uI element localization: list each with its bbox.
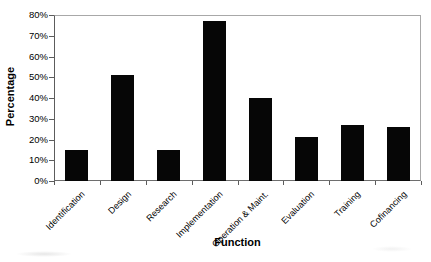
y-axis-tick-label: 20% (14, 134, 48, 146)
bar-cofinancing (387, 127, 410, 181)
y-axis-tick-label: 0% (14, 175, 48, 187)
x-axis-category-label-design: Design (106, 189, 133, 216)
y-axis-tick-mark (49, 140, 54, 141)
x-axis-category-label-research: Research (144, 189, 178, 223)
x-axis-title: Function (54, 236, 421, 249)
bar-design (111, 75, 134, 181)
bar-research (157, 150, 180, 181)
bar-chart: Percentage 0%10%20%30%40%50%60%70%80% Id… (0, 0, 431, 262)
y-axis-tick-mark (49, 15, 54, 16)
y-axis-tick-mark (49, 98, 54, 99)
x-axis-category-label-evaluation: Evaluation (280, 189, 317, 226)
y-axis-tick-mark (49, 57, 54, 58)
x-axis-category-label-training: Training (332, 189, 362, 219)
bar-evaluation (295, 137, 318, 181)
y-axis-tick-mark (49, 160, 54, 161)
x-axis-category-label-identification: Identification (44, 189, 87, 232)
x-axis-tick-mark (146, 181, 147, 185)
x-axis-tick-mark (283, 181, 284, 185)
plot-area (54, 15, 421, 181)
scan-smudge (372, 246, 412, 252)
y-axis-tick-mark (49, 119, 54, 120)
y-axis-tick-mark (49, 77, 54, 78)
y-axis-tick-label: 40% (14, 92, 48, 104)
y-axis-tick-label: 80% (14, 9, 48, 21)
y-axis-tick-label: 60% (14, 51, 48, 63)
bar-implementation (203, 21, 226, 181)
bar-operation-maint (249, 98, 272, 181)
y-axis-tick-mark (49, 36, 54, 37)
bar-training (341, 125, 364, 181)
x-axis-tick-mark (421, 181, 422, 185)
x-axis-category-label-implementation: Implementation (174, 189, 225, 240)
y-axis-tick-label: 30% (14, 113, 48, 125)
y-axis-tick-label: 50% (14, 71, 48, 83)
x-axis-tick-mark (329, 181, 330, 185)
bar-identification (65, 150, 88, 181)
x-axis-tick-mark (238, 181, 239, 185)
x-axis-tick-mark (192, 181, 193, 185)
x-axis-tick-mark (375, 181, 376, 185)
x-axis-tick-mark (100, 181, 101, 185)
scan-smudge (16, 251, 72, 257)
x-axis-category-label-cofinancing: Cofinancing (367, 189, 408, 230)
y-axis-tick-label: 10% (14, 154, 48, 166)
y-axis-tick-label: 70% (14, 30, 48, 42)
x-axis-tick-mark (54, 181, 55, 185)
